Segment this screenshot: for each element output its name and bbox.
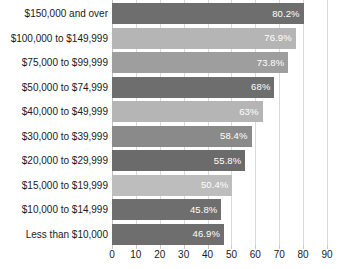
bar-value-label: 46.9% (193, 229, 220, 239)
x-tick-label-90: 90 (321, 249, 332, 260)
category-label: $75,000 to $99,999 (22, 52, 108, 73)
bar-value-label: 80.2% (272, 9, 299, 19)
bar[interactable]: 55.8% (112, 150, 245, 171)
bar-value-label: 45.8% (190, 205, 217, 215)
bar-value-label: 76.9% (264, 33, 291, 43)
category-label: Less than $10,000 (26, 224, 108, 245)
bar[interactable]: 76.9% (112, 28, 296, 49)
bar-row: 50.4% (112, 175, 327, 196)
bar-value-label: 73.8% (257, 58, 284, 68)
x-tick-label-20: 20 (154, 249, 165, 260)
bar-row: 63% (112, 101, 327, 122)
bar-row: 55.8% (112, 150, 327, 171)
bar[interactable]: 46.9% (112, 224, 224, 245)
x-tick-label-50: 50 (226, 249, 237, 260)
x-tick-label-30: 30 (178, 249, 189, 260)
category-label: $10,000 to $14,999 (22, 199, 108, 220)
category-label: $15,000 to $19,999 (22, 175, 108, 196)
bar-row: 58.4% (112, 126, 327, 147)
bar-value-label: 63% (239, 107, 258, 117)
bar-row: 68% (112, 77, 327, 98)
x-tick-label-80: 80 (298, 249, 309, 260)
bar-row: 46.9% (112, 224, 327, 245)
bar[interactable]: 63% (112, 101, 263, 122)
bar[interactable]: 45.8% (112, 199, 221, 220)
bar-value-label: 55.8% (214, 156, 241, 166)
category-label: $40,000 to $49,999 (22, 101, 108, 122)
plot-area: 80.2%76.9%73.8%68%63%58.4%55.8%50.4%45.8… (112, 0, 327, 245)
category-label: $100,000 to $149,999 (11, 28, 108, 49)
bar-rows: 80.2%76.9%73.8%68%63%58.4%55.8%50.4%45.8… (112, 0, 327, 245)
bar[interactable]: 73.8% (112, 52, 288, 73)
x-tick-label-40: 40 (202, 249, 213, 260)
bar-value-label: 68% (251, 82, 270, 92)
category-label: $50,000 to $74,999 (22, 77, 108, 98)
bar-row: 76.9% (112, 28, 327, 49)
category-label: $20,000 to $29,999 (22, 150, 108, 171)
category-label: $150,000 and over (25, 3, 108, 24)
bar-chart: $150,000 and over$100,000 to $149,999$75… (0, 0, 340, 269)
x-tick-label-0: 0 (109, 249, 115, 260)
x-tick-label-70: 70 (274, 249, 285, 260)
bar-value-label: 50.4% (201, 180, 228, 190)
x-tick-label-10: 10 (130, 249, 141, 260)
category-label: $30,000 to $39,999 (22, 126, 108, 147)
bar-row: 80.2% (112, 3, 327, 24)
bar[interactable]: 50.4% (112, 175, 232, 196)
gridline-90 (327, 0, 328, 245)
bar[interactable]: 58.4% (112, 126, 252, 147)
bar-value-label: 58.4% (220, 131, 247, 141)
bar[interactable]: 80.2% (112, 3, 304, 24)
category-axis-labels: $150,000 and over$100,000 to $149,999$75… (0, 0, 108, 245)
bar-row: 73.8% (112, 52, 327, 73)
x-tick-label-60: 60 (250, 249, 261, 260)
bar-row: 45.8% (112, 199, 327, 220)
x-axis: 0102030405060708090 (112, 245, 327, 269)
bar[interactable]: 68% (112, 77, 274, 98)
